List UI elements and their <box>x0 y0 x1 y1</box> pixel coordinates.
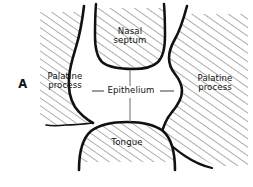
anatomy-figure: A Nasal septum Palatine process Palatine… <box>0 0 253 187</box>
label-nasal-septum: Nasal septum <box>104 27 156 46</box>
label-palatine-process-left: Palatine process <box>38 72 92 91</box>
leader-lines <box>92 70 174 122</box>
label-tongue: Tongue <box>106 138 148 147</box>
label-epithelium: Epithelium <box>104 86 158 95</box>
panel-letter: A <box>14 78 32 90</box>
label-palatine-process-right: Palatine process <box>188 74 242 93</box>
